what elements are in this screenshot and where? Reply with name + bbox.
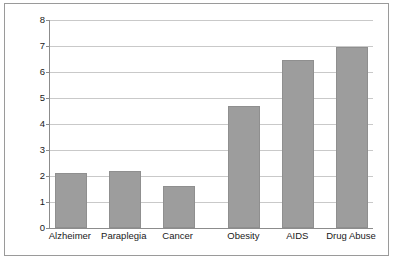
y-tick-label: 4 (40, 119, 45, 129)
bar (282, 60, 314, 228)
y-tick-label: 1 (40, 197, 45, 207)
plot-area-wrapper: 012345678 AlzheimerParaplegiaCancerObesi… (5, 4, 390, 257)
bar (163, 186, 195, 228)
x-tick-label: AIDS (286, 230, 308, 241)
x-tick-label: Cancer (162, 230, 193, 241)
y-axis-tick-labels: 012345678 (29, 14, 45, 228)
y-tick-label: 8 (40, 15, 45, 25)
x-axis-tick-labels: AlzheimerParaplegiaCancerObesityAIDSDrug… (49, 230, 372, 250)
y-tick-label: 7 (40, 41, 45, 51)
y-axis-tick (46, 228, 50, 229)
plot-area (49, 20, 373, 229)
y-tick-label: 6 (40, 67, 45, 77)
x-tick-label: Obesity (227, 230, 259, 241)
bar (336, 47, 368, 228)
y-tick-label: 5 (40, 93, 45, 103)
y-tick-label: 2 (40, 171, 45, 181)
x-tick-label: Alzheimer (49, 230, 91, 241)
chart-frame: 012345678 AlzheimerParaplegiaCancerObesi… (4, 3, 389, 256)
y-tick-label: 0 (40, 223, 45, 233)
bar (228, 106, 260, 228)
y-tick-label: 3 (40, 145, 45, 155)
bar-series (50, 20, 373, 228)
x-tick-label: Paraplegia (101, 230, 146, 241)
chart-page: 012345678 AlzheimerParaplegiaCancerObesi… (0, 0, 393, 260)
bar (109, 171, 141, 228)
x-tick-label: Drug Abuse (326, 230, 376, 241)
bar (55, 173, 87, 228)
